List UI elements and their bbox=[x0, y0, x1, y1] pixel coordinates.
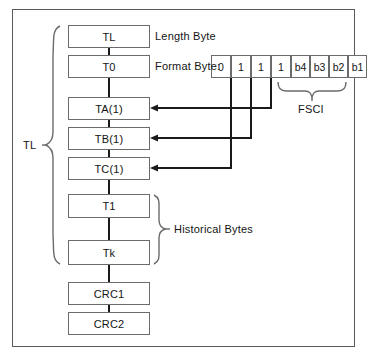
label-tl-brace: TL bbox=[23, 139, 36, 151]
format-bit-cell-7[interactable]: 1 bbox=[231, 55, 251, 78]
label-length-byte: Length Byte bbox=[155, 30, 216, 42]
byte-box-tl[interactable]: TL bbox=[68, 25, 150, 48]
format-bit-cell-b1[interactable]: b1 bbox=[348, 55, 367, 78]
label-format-byte: Format Byte: bbox=[155, 60, 220, 72]
byte-box-tk[interactable]: Tk bbox=[68, 240, 150, 265]
format-bit-cell-b4[interactable]: b4 bbox=[291, 55, 310, 78]
byte-box-tb1[interactable]: TB(1) bbox=[68, 127, 150, 150]
diagram-root: TL T0 TA(1) TB(1) TC(1) T1 Tk CRC1 CRC2 … bbox=[0, 0, 368, 361]
byte-box-tc1[interactable]: TC(1) bbox=[68, 157, 150, 180]
byte-box-crc1[interactable]: CRC1 bbox=[68, 282, 150, 305]
byte-box-crc2[interactable]: CRC2 bbox=[68, 312, 150, 335]
format-bit-cell-5[interactable]: 1 bbox=[271, 55, 291, 78]
format-bit-cell-b2[interactable]: b2 bbox=[329, 55, 348, 78]
label-fsci: FSCI bbox=[298, 103, 324, 115]
byte-box-ta1[interactable]: TA(1) bbox=[68, 97, 150, 120]
format-bit-cell-6[interactable]: 1 bbox=[251, 55, 271, 78]
label-historical-bytes: Historical Bytes bbox=[174, 223, 253, 235]
byte-box-t0[interactable]: T0 bbox=[68, 55, 150, 78]
format-bit-cell-b3[interactable]: b3 bbox=[310, 55, 329, 78]
byte-box-t1[interactable]: T1 bbox=[68, 194, 150, 218]
